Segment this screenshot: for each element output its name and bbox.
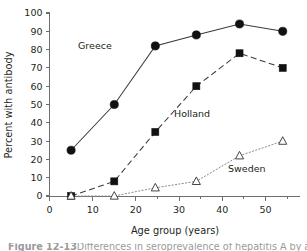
data-point-holland-15 — [111, 178, 118, 185]
chart-figure: 0102030405060708090100 01020304050 Greec… — [0, 0, 307, 251]
y-tick-label: 40 — [30, 117, 42, 128]
y-axis-ticks — [46, 13, 50, 196]
y-axis-tick-labels: 0102030405060708090100 — [24, 7, 42, 201]
series-label-greece: Greece — [78, 40, 112, 51]
series-label-sweden: Sweden — [228, 163, 266, 174]
x-axis-tick-labels: 01020304050 — [46, 204, 271, 215]
data-point-holland-34 — [193, 83, 200, 90]
x-tick-label: 0 — [46, 204, 52, 215]
data-point-sweden-44 — [235, 151, 243, 159]
data-point-greece-54 — [279, 27, 287, 35]
y-tick-label: 80 — [30, 44, 42, 55]
data-point-greece-15 — [110, 100, 118, 108]
y-tick-label: 90 — [30, 26, 42, 37]
x-tick-label: 40 — [216, 204, 228, 215]
x-tick-label: 20 — [130, 204, 142, 215]
data-point-greece-5 — [67, 146, 75, 154]
y-axis-title: Percent with antibody — [3, 51, 14, 158]
y-tick-label: 70 — [30, 62, 42, 73]
figure-caption: Figure 12-13Differences in seroprevalenc… — [0, 243, 307, 251]
figure-caption-prefix: Figure 12-13 — [8, 243, 77, 251]
y-tick-label: 20 — [30, 154, 42, 165]
x-tick-label: 50 — [259, 204, 271, 215]
figure-caption-body: Differences in seroprevalence of hepatit… — [77, 243, 307, 251]
data-point-sweden-15 — [110, 192, 118, 200]
series-line-holland — [71, 53, 283, 196]
y-tick-label: 60 — [30, 81, 42, 92]
data-point-holland-24.5 — [152, 128, 159, 135]
data-point-sweden-54 — [279, 137, 287, 145]
data-point-greece-34 — [192, 31, 200, 39]
x-tick-label: 10 — [87, 204, 99, 215]
antibody-by-age-line-chart: 0102030405060708090100 01020304050 Greec… — [0, 0, 307, 251]
y-tick-label: 30 — [30, 136, 42, 147]
y-tick-label: 0 — [36, 190, 42, 201]
data-point-sweden-34 — [192, 177, 200, 185]
y-tick-label: 10 — [30, 172, 42, 183]
x-tick-label: 30 — [173, 204, 185, 215]
data-point-holland-44 — [236, 50, 243, 57]
data-point-holland-54 — [279, 64, 286, 71]
y-tick-label: 50 — [30, 99, 42, 110]
data-point-greece-24.5 — [151, 42, 159, 50]
series-label-holland: Holland — [174, 108, 210, 119]
data-point-greece-44 — [235, 20, 243, 28]
y-tick-label: 100 — [24, 7, 42, 18]
x-axis-title: Age group (years) — [131, 225, 219, 236]
series-annotations: GreeceHollandSweden — [78, 40, 266, 174]
figure-caption-text: Figure 12-13Differences in seroprevalenc… — [8, 243, 307, 251]
